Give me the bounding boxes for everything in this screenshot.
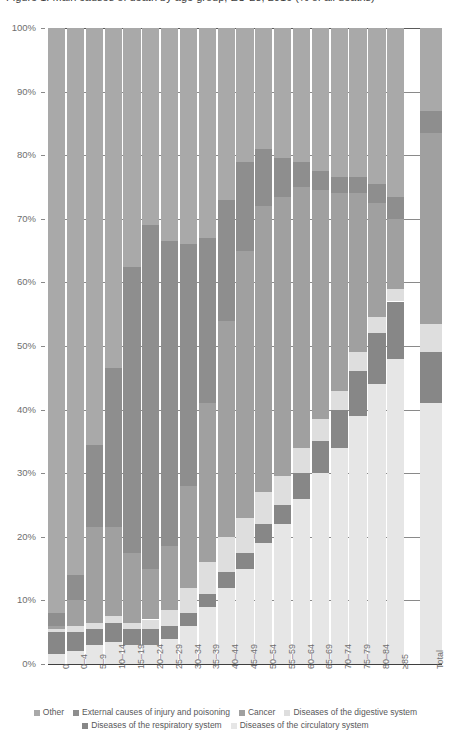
bar-15–19[interactable] — [123, 28, 140, 664]
bar-segment[interactable] — [293, 187, 310, 448]
bar-5–9[interactable] — [86, 28, 103, 664]
bar-segment[interactable] — [368, 28, 385, 184]
bar-segment[interactable] — [331, 28, 348, 177]
bar-20–24[interactable] — [142, 28, 159, 664]
bar-segment[interactable] — [420, 403, 442, 664]
bar-segment[interactable] — [199, 238, 216, 403]
bar-segment[interactable] — [236, 162, 253, 251]
bar-segment[interactable] — [236, 518, 253, 553]
bar-segment[interactable] — [331, 410, 348, 448]
bar-segment[interactable] — [161, 546, 178, 610]
bar-segment[interactable] — [255, 28, 272, 149]
bar-segment[interactable] — [86, 629, 103, 645]
bar-80–84[interactable] — [368, 28, 385, 664]
bar-75–79[interactable] — [349, 28, 366, 664]
bar-segment[interactable] — [368, 203, 385, 317]
bar-segment[interactable] — [48, 28, 65, 613]
bar-segment[interactable] — [48, 632, 65, 654]
bar-segment[interactable] — [349, 177, 366, 193]
legend-item[interactable]: Other — [34, 706, 64, 719]
bar-segment[interactable] — [105, 623, 122, 642]
bar-segment[interactable] — [180, 28, 197, 244]
bar-40–44[interactable] — [218, 28, 235, 664]
bar-segment[interactable] — [105, 527, 122, 616]
bar-segment[interactable] — [180, 613, 197, 626]
bar-segment[interactable] — [387, 289, 404, 302]
bar-0[interactable] — [48, 28, 65, 664]
legend-item[interactable]: Diseases of the digestive system — [284, 706, 417, 719]
bar-segment[interactable] — [180, 486, 197, 588]
bar-25–29[interactable] — [161, 28, 178, 664]
legend-item[interactable]: Diseases of the respiratory system — [82, 719, 221, 732]
bar-segment[interactable] — [293, 473, 310, 498]
bar-segment[interactable] — [123, 267, 140, 553]
bar-segment[interactable] — [387, 219, 404, 289]
bar-segment[interactable] — [199, 594, 216, 607]
legend-item[interactable]: Cancer — [239, 706, 275, 719]
bar-segment[interactable] — [255, 524, 272, 543]
bar-segment[interactable] — [349, 416, 366, 664]
bar-30–34[interactable] — [180, 28, 197, 664]
bar-segment[interactable] — [274, 158, 291, 196]
bar-segment[interactable] — [274, 197, 291, 477]
bar-65–69[interactable] — [312, 28, 329, 664]
bar-segment[interactable] — [199, 28, 216, 238]
bar-segment[interactable] — [86, 527, 103, 622]
bar-segment[interactable] — [86, 28, 103, 445]
bar-segment[interactable] — [312, 441, 329, 473]
bar-≥85[interactable] — [387, 28, 404, 664]
bar-segment[interactable] — [331, 193, 348, 390]
bar-segment[interactable] — [142, 225, 159, 568]
bar-segment[interactable] — [293, 499, 310, 664]
bar-segment[interactable] — [105, 616, 122, 622]
bar-segment[interactable] — [349, 28, 366, 177]
bar-segment[interactable] — [274, 476, 291, 505]
bar-segment[interactable] — [368, 184, 385, 203]
bar-segment[interactable] — [312, 419, 329, 441]
bar-segment[interactable] — [420, 133, 442, 324]
bar-segment[interactable] — [368, 317, 385, 333]
bar-segment[interactable] — [331, 448, 348, 664]
bar-0–4[interactable] — [67, 28, 84, 664]
bar-segment[interactable] — [293, 448, 310, 473]
bar-segment[interactable] — [67, 28, 84, 575]
bar-segment[interactable] — [123, 28, 140, 267]
bar-segment[interactable] — [161, 626, 178, 639]
bar-segment[interactable] — [105, 28, 122, 368]
bar-segment[interactable] — [255, 492, 272, 524]
bar-45–49[interactable] — [236, 28, 253, 664]
bar-segment[interactable] — [123, 629, 140, 645]
bar-segment[interactable] — [274, 505, 291, 524]
bar-segment[interactable] — [67, 575, 84, 600]
bar-segment[interactable] — [199, 562, 216, 594]
bar-segment[interactable] — [420, 324, 442, 353]
bar-segment[interactable] — [387, 359, 404, 664]
bar-segment[interactable] — [142, 629, 159, 645]
bar-segment[interactable] — [67, 600, 84, 625]
bar-segment[interactable] — [48, 654, 65, 664]
bar-segment[interactable] — [349, 371, 366, 416]
bar-segment[interactable] — [293, 162, 310, 187]
legend-item[interactable]: Diseases of the circulatory system — [231, 719, 369, 732]
bar-segment[interactable] — [312, 473, 329, 664]
bar-segment[interactable] — [67, 632, 84, 651]
bar-segment[interactable] — [368, 384, 385, 664]
bar-segment[interactable] — [387, 302, 404, 359]
bar-segment[interactable] — [387, 28, 404, 197]
bar-segment[interactable] — [218, 28, 235, 200]
bar-segment[interactable] — [218, 572, 235, 588]
bar-segment[interactable] — [161, 241, 178, 546]
bar-10–14[interactable] — [105, 28, 122, 664]
bar-segment[interactable] — [218, 321, 235, 537]
bar-segment[interactable] — [105, 368, 122, 527]
bar-segment[interactable] — [331, 391, 348, 410]
bar-segment[interactable] — [349, 352, 366, 371]
legend-item[interactable]: External causes of injury and poisoning — [73, 706, 230, 719]
bar-segment[interactable] — [387, 197, 404, 219]
bar-70–74[interactable] — [331, 28, 348, 664]
bar-segment[interactable] — [255, 206, 272, 492]
bar-segment[interactable] — [420, 352, 442, 403]
bar-segment[interactable] — [312, 28, 329, 171]
bar-segment[interactable] — [218, 200, 235, 321]
bar-segment[interactable] — [255, 149, 272, 206]
